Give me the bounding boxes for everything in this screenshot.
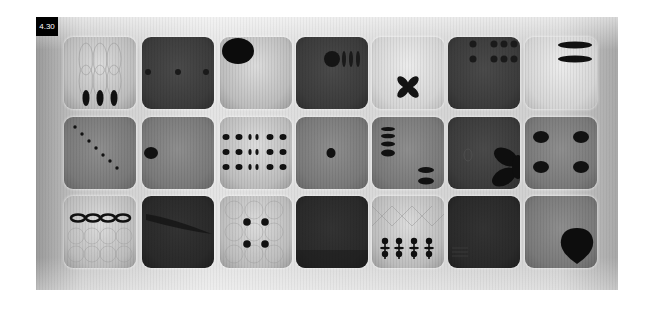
plain-dark-icon [296,196,368,268]
figures-icon [372,196,444,268]
three-ellipses-icon [64,37,136,109]
tile-r1-c3 [220,37,292,109]
tile-r3-c3 [220,196,292,268]
four-ellipses-icon [525,117,597,189]
large-ellipse-icon [220,37,292,109]
tile-r1-c5 [372,37,444,109]
diagonal-dots-icon [64,117,136,189]
tile-r2-c1 [64,117,136,189]
tile-r2-c7 [525,117,597,189]
teardrop-icon [525,196,597,268]
ellipse-stack-icon [372,117,444,189]
diagonal-streak-icon [142,196,214,268]
four-dots-icon [220,196,292,268]
tile-r1-c2 [142,37,214,109]
tile-r2-c3 [220,117,292,189]
tile-r1-c4 [296,37,368,109]
figure-label: 4.30 [36,17,58,36]
chain-ellipses-icon [64,196,136,268]
tile-r1-c6 [448,37,520,109]
tile-r3-c6 [448,196,520,268]
single-ellipse-icon [142,117,214,189]
faint-lines-icon [448,196,520,268]
two-ellipses-icon [525,37,597,109]
circle-bars-icon [296,37,368,109]
tile-r1-c7 [525,37,597,109]
tile-r2-c4 [296,117,368,189]
dot-grid-icon [220,117,292,189]
three-dots-icon [142,37,214,109]
tile-r3-c5 [372,196,444,268]
cross-icon [372,37,444,109]
tile-r3-c2 [142,196,214,268]
tile-r3-c1 [64,196,136,268]
tile-r3-c4 [296,196,368,268]
tile-r2-c6 [448,117,520,189]
tile-r2-c5 [372,117,444,189]
tile-r2-c2 [142,117,214,189]
dot-rows-icon [448,37,520,109]
center-dot-icon [296,117,368,189]
tile-r1-c1 [64,37,136,109]
tile-r3-c7 [525,196,597,268]
propeller-icon [448,117,520,189]
